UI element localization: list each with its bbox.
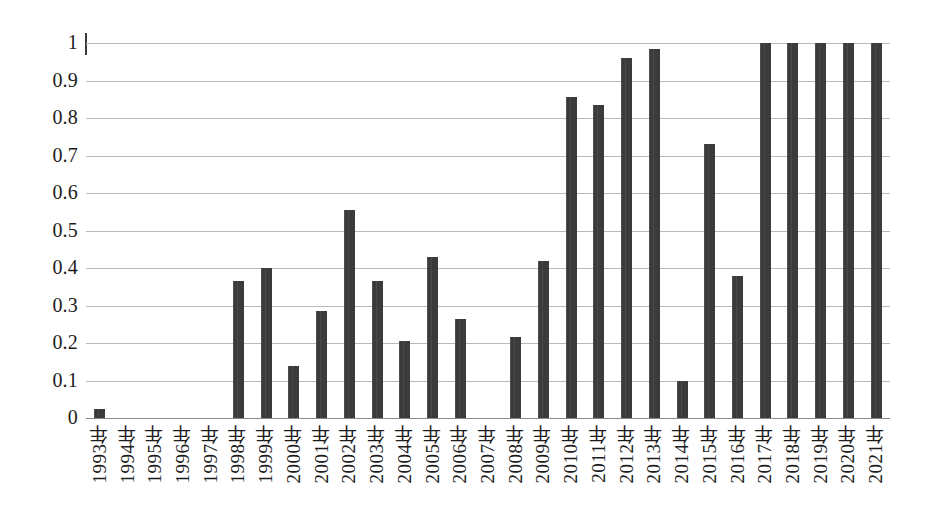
- x-tick-label: 2000年: [283, 424, 305, 484]
- bar: [649, 49, 660, 418]
- bar: [760, 43, 771, 418]
- bar: [510, 337, 521, 418]
- x-tick-label: 2010年: [560, 424, 582, 484]
- bar: [316, 311, 327, 418]
- x-axis-tick-labels: 1993年1994年1995年1996年1997年1998年1999年2000年…: [86, 424, 890, 512]
- x-tick-label: 2005年: [422, 424, 444, 484]
- bar: [399, 341, 410, 418]
- bar: [566, 97, 577, 418]
- bar: [94, 409, 105, 418]
- bar: [704, 144, 715, 418]
- x-tick-label: 2006年: [449, 424, 471, 484]
- x-tick-label: 1996年: [172, 424, 194, 484]
- bar: [427, 257, 438, 418]
- bar-chart: 00.10.20.30.40.50.60.70.80.91 1993年1994年…: [0, 0, 947, 514]
- bar: [621, 58, 632, 418]
- x-tick-label: 1999年: [255, 424, 277, 484]
- x-tick-label: 1997年: [200, 424, 222, 484]
- bar: [233, 281, 244, 418]
- bar: [455, 319, 466, 418]
- y-tick-label: 0.7: [26, 145, 78, 165]
- bar: [843, 43, 854, 418]
- bar: [538, 261, 549, 419]
- y-tick-label: 0.8: [26, 107, 78, 127]
- bar: [344, 210, 355, 418]
- bar: [677, 381, 688, 418]
- y-tick-label: 0.6: [26, 182, 78, 202]
- y-tick-label: 0.1: [26, 370, 78, 390]
- y-tick-label: 0.2: [26, 332, 78, 352]
- x-tick-label: 1993年: [89, 424, 111, 484]
- bar: [593, 105, 604, 418]
- x-tick-label: 2007年: [477, 424, 499, 484]
- x-tick-label: 1995年: [144, 424, 166, 484]
- x-tick-label: 2021年: [865, 424, 887, 484]
- plot-area: [86, 43, 890, 418]
- bar: [261, 268, 272, 418]
- bar: [732, 276, 743, 419]
- y-tick-label: 0.9: [26, 70, 78, 90]
- x-tick-label: 2020年: [837, 424, 859, 484]
- x-tick-label: 2012年: [616, 424, 638, 484]
- x-tick-label: 2013年: [643, 424, 665, 484]
- x-tick-label: 2016年: [727, 424, 749, 484]
- x-tick-label: 2019年: [810, 424, 832, 484]
- y-tick-label: 1: [26, 32, 78, 52]
- bar: [288, 366, 299, 419]
- y-tick-label: 0: [26, 407, 78, 427]
- x-tick-label: 2008年: [505, 424, 527, 484]
- bar: [871, 43, 882, 418]
- y-tick-label: 0.4: [26, 257, 78, 277]
- y-axis-tick-labels: 00.10.20.30.40.50.60.70.80.91: [16, 43, 78, 418]
- x-tick-label: 2003年: [366, 424, 388, 484]
- x-tick-label: 2009年: [532, 424, 554, 484]
- x-tick-label: 2004年: [394, 424, 416, 484]
- x-tick-label: 2001年: [311, 424, 333, 484]
- bar: [815, 43, 826, 418]
- bar: [372, 281, 383, 418]
- x-tick-label: 2002年: [338, 424, 360, 484]
- x-tick-label: 1998年: [227, 424, 249, 484]
- y-tick-label: 0.3: [26, 295, 78, 315]
- gridline: [86, 418, 890, 419]
- x-tick-label: 2011年: [588, 424, 610, 483]
- x-tick-label: 2017年: [754, 424, 776, 484]
- x-tick-label: 2015年: [699, 424, 721, 484]
- x-tick-label: 1994年: [117, 424, 139, 484]
- x-tick-label: 2018年: [782, 424, 804, 484]
- bar: [787, 43, 798, 418]
- y-tick-label: 0.5: [26, 220, 78, 240]
- x-tick-label: 2014年: [671, 424, 693, 484]
